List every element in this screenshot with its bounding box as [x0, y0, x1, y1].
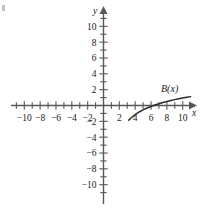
x-tick-label: −4 [67, 113, 77, 123]
y-tick-label: −10 [82, 180, 97, 190]
y-tick-label: 2 [92, 85, 97, 95]
x-tick-label: −10 [17, 113, 32, 123]
x-tick-label: −8 [35, 113, 45, 123]
y-tick-label: 8 [92, 38, 97, 48]
x-axis-label: x [191, 108, 197, 118]
y-axis-label: y [92, 6, 98, 16]
y-tick-label: −4 [86, 133, 96, 143]
y-tick-label: 6 [92, 53, 97, 63]
coordinate-plane-figure: −10−8−6−4−2246810108642−2−4−6−8−10 B(x) … [0, 0, 206, 210]
y-tick-label: −2 [86, 117, 96, 127]
plot-svg: −10−8−6−4−2246810108642−2−4−6−8−10 B(x) … [0, 0, 206, 210]
x-tick-label: −6 [51, 113, 61, 123]
x-tick-label: 6 [149, 113, 154, 123]
y-tick-label: 10 [87, 22, 97, 32]
x-tick-label: 10 [178, 113, 188, 123]
x-tick-label: 8 [164, 113, 169, 123]
curve-label-bx: B(x) [161, 83, 179, 95]
y-tick-label: −6 [86, 148, 96, 158]
y-tick-label: −8 [86, 164, 96, 174]
y-axis-arrowhead [100, 6, 108, 14]
y-tick-label: 4 [92, 69, 97, 79]
x-tick-label: 2 [117, 113, 122, 123]
axes-layer [11, 6, 197, 204]
